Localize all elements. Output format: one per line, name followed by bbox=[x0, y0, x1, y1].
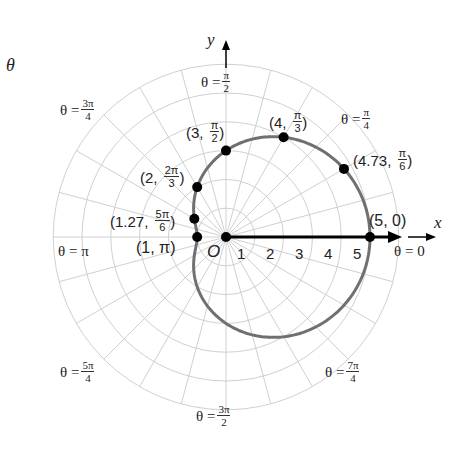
angle-label-0: θ = 0 bbox=[394, 244, 425, 259]
plotted-point bbox=[189, 214, 199, 224]
angle-label-5pi-4: θ = 5π4 bbox=[60, 360, 94, 384]
point-label-4_73-pi-6: (4.73, π6) bbox=[353, 148, 412, 172]
tick-4: 4 bbox=[324, 245, 332, 262]
angle-label-3pi-2: θ = 3π2 bbox=[196, 404, 230, 428]
corner-theta-label: θ bbox=[6, 56, 15, 74]
tick-2: 2 bbox=[266, 245, 274, 262]
point-label-1-pi: (1, π) bbox=[136, 240, 175, 256]
point-label-1_27-5pi-6: (1.27, 5π6) bbox=[110, 209, 175, 233]
plotted-point bbox=[192, 232, 202, 242]
plotted-point bbox=[221, 146, 231, 156]
plotted-point bbox=[365, 232, 375, 242]
point-label-2-2pi-3: (2, 2π3) bbox=[140, 165, 184, 189]
point-label-4-pi-3: (4, π3) bbox=[269, 110, 307, 134]
angle-label-pi-4: θ = π4 bbox=[341, 107, 370, 131]
x-axis-label: x bbox=[434, 213, 442, 233]
point-label-3-pi-2: (3, π2) bbox=[186, 120, 224, 144]
tick-1: 1 bbox=[237, 245, 245, 262]
origin-label: O bbox=[207, 242, 220, 262]
point-label-5-0: (5, 0) bbox=[369, 213, 406, 229]
angle-label-3pi-4: θ = 3π4 bbox=[60, 98, 94, 122]
y-axis-label: y bbox=[207, 30, 215, 50]
angle-label-pi: θ = π bbox=[58, 244, 89, 259]
plotted-point bbox=[192, 182, 202, 192]
x-axis bbox=[226, 231, 436, 243]
plotted-point bbox=[339, 164, 349, 174]
tick-3: 3 bbox=[295, 245, 303, 262]
origin-point bbox=[221, 232, 231, 242]
angle-label-7pi-4: θ = 7π4 bbox=[325, 360, 359, 384]
tick-5: 5 bbox=[353, 245, 361, 262]
angle-label-pi-2: θ = π2 bbox=[201, 70, 230, 94]
